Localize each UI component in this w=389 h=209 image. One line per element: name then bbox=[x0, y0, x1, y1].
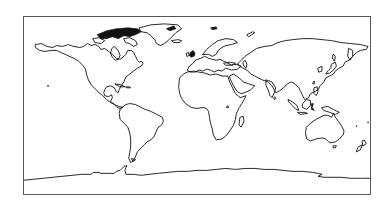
scandinavia bbox=[203, 39, 238, 57]
korea bbox=[318, 66, 322, 72]
hispaniola bbox=[126, 87, 131, 88]
australia bbox=[306, 113, 344, 143]
baffin-island bbox=[124, 38, 137, 47]
world-map bbox=[23, 16, 371, 195]
novaya-zemlya bbox=[247, 32, 255, 37]
british-isles bbox=[189, 50, 195, 57]
new-caledonia bbox=[356, 126, 357, 127]
cuba bbox=[115, 84, 125, 87]
sulawesi bbox=[311, 104, 314, 111]
fiji bbox=[368, 122, 369, 123]
north-america bbox=[36, 44, 144, 109]
hawaii bbox=[47, 85, 48, 86]
caspian-sea bbox=[243, 60, 247, 68]
svalbard bbox=[210, 27, 217, 30]
arabian-peninsula bbox=[230, 74, 255, 94]
south-america bbox=[119, 104, 163, 163]
new-zealand-north bbox=[362, 140, 366, 146]
asia bbox=[237, 39, 368, 100]
taiwan bbox=[313, 81, 314, 84]
ireland bbox=[186, 52, 189, 56]
greenland-north-ice bbox=[166, 26, 176, 31]
india bbox=[266, 80, 276, 98]
sumatra bbox=[288, 100, 299, 111]
iceland bbox=[172, 40, 182, 43]
sri-lanka bbox=[274, 97, 276, 100]
borneo bbox=[303, 100, 311, 110]
antarctica bbox=[24, 165, 370, 180]
tasmania bbox=[333, 146, 336, 148]
madagascar bbox=[239, 116, 244, 127]
new-guinea bbox=[322, 106, 339, 114]
canadian-arctic-archipelago bbox=[97, 28, 141, 39]
java bbox=[298, 112, 308, 114]
coastline-map bbox=[24, 17, 370, 194]
lake-victoria bbox=[227, 106, 229, 108]
africa bbox=[179, 71, 246, 140]
new-zealand-south bbox=[357, 145, 363, 152]
hudson-bay bbox=[111, 47, 121, 61]
sakhalin bbox=[333, 54, 336, 61]
